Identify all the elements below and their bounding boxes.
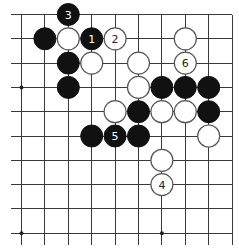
white-stone-disc: [151, 101, 173, 123]
black-stone-disc: [34, 28, 56, 50]
black-stone: [198, 101, 220, 123]
white-stone: 2: [104, 28, 126, 50]
white-stone: [151, 149, 173, 171]
star-point: [20, 85, 24, 89]
white-stone: [128, 76, 150, 98]
white-stone: 6: [174, 52, 196, 74]
white-stone-disc: [174, 28, 196, 50]
black-stone-disc: [174, 76, 196, 98]
black-stone: [81, 125, 103, 147]
black-stone-disc: [81, 125, 103, 147]
white-stone: [198, 125, 220, 147]
white-stone-disc: [57, 28, 79, 50]
move-number-label: 5: [112, 130, 119, 143]
stones-layer: 312654: [34, 4, 220, 196]
white-stone: 4: [151, 174, 173, 196]
black-stone-disc: [198, 76, 220, 98]
white-stone: [57, 28, 79, 50]
move-number-label: 6: [182, 57, 189, 70]
black-stone: [198, 76, 220, 98]
white-stone-disc: [81, 52, 103, 74]
black-stone: [174, 76, 196, 98]
white-stone: [104, 101, 126, 123]
black-stone: 3: [57, 4, 79, 26]
white-stone: [128, 52, 150, 74]
black-stone: 1: [81, 28, 103, 50]
black-stone-disc: [151, 76, 173, 98]
move-number-label: 4: [158, 179, 165, 192]
move-number-label: 1: [88, 33, 95, 46]
move-number-label: 2: [112, 33, 119, 46]
black-stone: [128, 125, 150, 147]
white-stone: [151, 101, 173, 123]
white-stone-disc: [104, 101, 126, 123]
white-stone-disc: [174, 101, 196, 123]
star-point: [160, 231, 164, 235]
white-stone-disc: [128, 76, 150, 98]
white-stone: [174, 28, 196, 50]
black-stone-disc: [57, 52, 79, 74]
move-number-label: 3: [65, 9, 72, 22]
go-board: 312654: [0, 0, 239, 250]
black-stone: 5: [104, 125, 126, 147]
white-stone-disc: [198, 125, 220, 147]
black-stone: [151, 76, 173, 98]
black-stone: [34, 28, 56, 50]
white-stone-disc: [128, 52, 150, 74]
white-stone: [81, 52, 103, 74]
black-stone: [128, 101, 150, 123]
white-stone-disc: [151, 149, 173, 171]
black-stone: [57, 52, 79, 74]
white-stone: [174, 101, 196, 123]
black-stone: [57, 76, 79, 98]
star-point: [20, 231, 24, 235]
black-stone-disc: [198, 101, 220, 123]
black-stone-disc: [128, 125, 150, 147]
black-stone-disc: [128, 101, 150, 123]
black-stone-disc: [57, 76, 79, 98]
